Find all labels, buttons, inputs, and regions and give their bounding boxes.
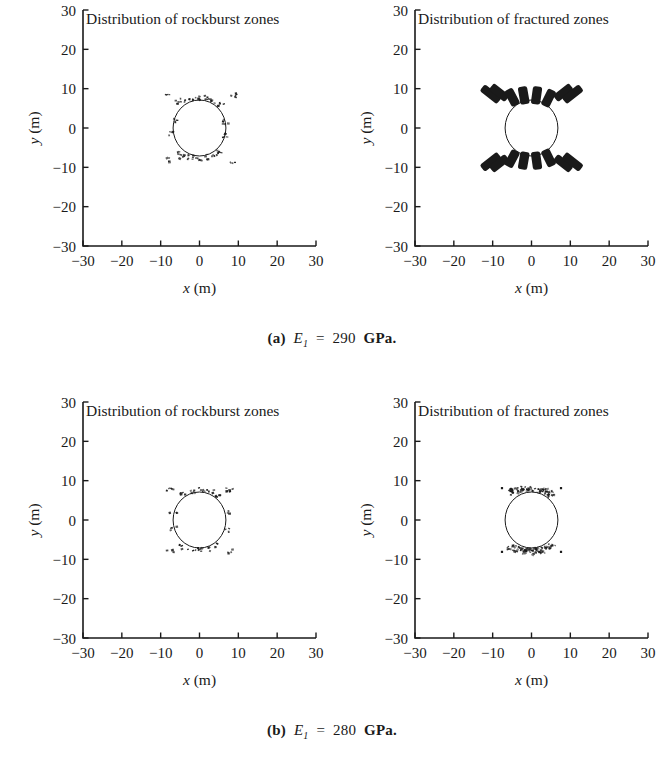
fracture-speckle — [516, 492, 519, 495]
rockburst-marker — [174, 121, 176, 123]
tunnel-circle — [173, 492, 226, 548]
rockburst-marker — [169, 529, 172, 532]
rockburst-marker — [177, 151, 179, 153]
y-tick-label: −30 — [385, 239, 408, 255]
x-tick-label: 0 — [528, 645, 536, 661]
axis-spine — [83, 402, 316, 638]
fracture-corner-point — [501, 487, 503, 489]
rockburst-marker — [168, 162, 171, 164]
rockburst-marker — [166, 489, 168, 491]
rockburst-marker — [192, 550, 194, 552]
fracture-dash — [540, 88, 556, 108]
fracture-speckle — [525, 550, 527, 552]
y-tick-label: −20 — [385, 591, 408, 607]
axis-spine — [415, 402, 648, 638]
rockburst-marker — [200, 489, 202, 491]
rockburst-marker — [192, 156, 194, 158]
caption-b: (b) E1 = 280 GPa. — [0, 722, 664, 741]
x-tick-label: 10 — [563, 645, 578, 661]
fracture-speckle — [550, 547, 552, 549]
rockburst-marker — [231, 162, 233, 164]
rockburst-marker — [168, 134, 170, 136]
caption-b-equals: = — [316, 722, 325, 738]
y-axis-label: y (m) — [357, 111, 375, 146]
x-tick-label: 30 — [309, 645, 324, 661]
x-tick-label: 20 — [602, 253, 617, 269]
plot-a-right: −30−20−1001020303020100−10−20−30x (m)y (… — [332, 0, 664, 310]
rockburst-marker — [175, 119, 178, 121]
x-tick-label: 20 — [602, 645, 617, 661]
rockburst-marker — [231, 548, 234, 550]
y-tick-label: 20 — [393, 42, 408, 58]
rockburst-marker — [198, 95, 201, 97]
plot-b-right: −30−20−1001020303020100−10−20−30x (m)y (… — [332, 392, 664, 702]
rockburst-marker — [217, 105, 219, 106]
fracture-speckle — [551, 544, 554, 546]
plot-a-left: −30−20−1001020303020100−10−20−30x (m)y (… — [0, 0, 332, 310]
rockburst-marker — [216, 496, 218, 498]
rockburst-marker — [176, 103, 179, 105]
rockburst-marker — [225, 490, 228, 493]
x-tick-label: −30 — [71, 645, 94, 661]
rockburst-marker — [171, 131, 174, 134]
fracture-speckle — [551, 491, 554, 493]
rockburst-marker — [197, 97, 200, 99]
x-tick-label: −10 — [149, 645, 172, 661]
fracture-speckle — [510, 494, 512, 496]
tunnel-circle — [173, 100, 226, 156]
x-tick-label: 10 — [231, 645, 246, 661]
rockburst-marker — [211, 155, 213, 157]
rockburst-marker — [208, 490, 210, 493]
rockburst-marker — [216, 542, 219, 545]
rockburst-marker — [171, 488, 174, 490]
x-tick-label: −30 — [71, 253, 94, 269]
x-axis-label: x (m) — [182, 279, 216, 297]
caption-a-value: 290 — [333, 330, 356, 346]
panel-b-left: −30−20−1001020303020100−10−20−30x (m)y (… — [0, 392, 332, 702]
svg-text:y (m): y (m) — [25, 503, 43, 538]
x-axis-label: x (m) — [514, 279, 548, 297]
rockburst-marker — [227, 510, 229, 512]
y-tick-label: 20 — [393, 434, 408, 450]
y-tick-label: 20 — [61, 42, 76, 58]
y-tick-label: −30 — [53, 239, 76, 255]
rockburst-marker — [168, 512, 171, 515]
svg-text:y (m): y (m) — [357, 111, 375, 146]
panel-a-left: −30−20−1001020303020100−10−20−30x (m)y (… — [0, 0, 332, 310]
rockburst-marker — [200, 550, 202, 552]
y-tick-label: −10 — [385, 552, 408, 568]
y-axis-label: y (m) — [25, 111, 43, 146]
caption-a: (a) E1 = 290 GPa. — [0, 330, 664, 349]
rockburst-marker — [169, 131, 172, 133]
rockburst-marker — [226, 136, 229, 138]
rockburst-marker — [198, 487, 200, 489]
y-tick-label: 10 — [61, 473, 76, 489]
caption-b-variable: E — [294, 722, 303, 738]
y-tick-label: 30 — [393, 3, 408, 19]
caption-a-equals: = — [316, 330, 325, 346]
rockburst-marker — [168, 487, 170, 489]
fracture-speckle — [548, 543, 550, 545]
y-axis-label: y (m) — [357, 503, 375, 538]
y-tick-label: 0 — [401, 121, 409, 137]
rockburst-marker — [195, 97, 197, 99]
y-tick-label: 20 — [61, 434, 76, 450]
rockburst-marker — [172, 551, 174, 553]
figure-row-b: −30−20−1001020303020100−10−20−30x (m)y (… — [0, 392, 664, 702]
figure-rockburst-fractured-zones: −30−20−1001020303020100−10−20−30x (m)y (… — [0, 0, 664, 764]
caption-a-variable: E — [294, 330, 303, 346]
x-tick-label: −30 — [403, 253, 426, 269]
fracture-speckle — [554, 545, 556, 547]
panel-a-right: −30−20−1001020303020100−10−20−30x (m)y (… — [332, 0, 664, 310]
rockburst-marker — [180, 101, 182, 103]
rockburst-marker — [213, 489, 216, 490]
x-axis-label: x (m) — [182, 671, 216, 689]
fracture-speckle — [520, 485, 523, 487]
rockburst-marker — [194, 549, 196, 551]
y-tick-label: 30 — [61, 395, 76, 411]
rockburst-marker — [228, 531, 230, 533]
panel-title: Distribution of fractured zones — [418, 402, 609, 419]
rockburst-marker — [230, 551, 232, 553]
fracture-corner-point — [560, 487, 562, 489]
rockburst-marker — [216, 154, 218, 156]
